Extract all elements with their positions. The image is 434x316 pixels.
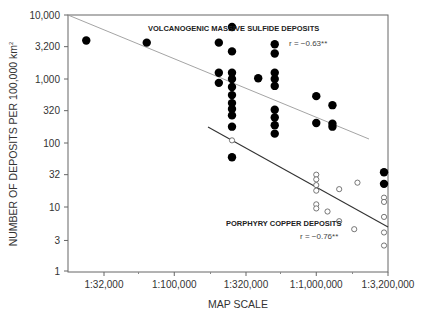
y-axis-title: NUMBER OF DEPOSITS PER 100,000 km2 xyxy=(7,41,19,246)
porphyry-r-label: r = −0.76** xyxy=(300,232,338,241)
porphyry-data-point xyxy=(314,177,319,182)
vms-data-point xyxy=(228,47,236,55)
vms-data-point xyxy=(271,113,279,121)
porphyry-series-label: PORPHYRY COPPER DEPOSITS xyxy=(226,219,341,228)
vms-data-point xyxy=(215,69,223,77)
porphyry-data-point xyxy=(337,187,342,192)
porphyry-data-point xyxy=(352,227,357,232)
vms-data-point xyxy=(328,122,336,130)
porphyry-trendline xyxy=(208,127,388,227)
vms-data-point xyxy=(228,111,236,119)
y-tick-label: 1,000 xyxy=(35,74,60,85)
porphyry-data-point xyxy=(381,230,386,235)
x-axis: 1:32,0001:100,0001:320,0001:1,000,0001:3… xyxy=(85,272,415,290)
porphyry-data-point xyxy=(314,206,319,211)
vms-data-point xyxy=(271,40,279,48)
vms-data-point xyxy=(215,38,223,46)
x-tick-label: 1:100,000 xyxy=(152,279,197,290)
vms-data-point xyxy=(215,79,223,87)
y-tick-label: 3 xyxy=(54,235,60,246)
y-tick-label: 32 xyxy=(49,169,61,180)
y-axis: 1310321003201,0003,20010,000 xyxy=(29,10,68,277)
porphyry-data-point xyxy=(229,138,234,143)
vms-data-point xyxy=(228,91,236,99)
vms-data-point xyxy=(271,129,279,137)
vms-data-point xyxy=(143,38,151,46)
vms-data-point xyxy=(271,106,279,114)
vms-data-point xyxy=(228,122,236,130)
vms-data-point xyxy=(271,82,279,90)
porphyry-data-point xyxy=(381,214,386,219)
y-tick-label: 1 xyxy=(54,266,60,277)
porphyry-data-point xyxy=(355,180,360,185)
x-tick-label: 1:1,000,000 xyxy=(290,279,343,290)
vms-data-point xyxy=(312,119,320,127)
porphyry-data-point xyxy=(381,243,386,248)
vms-data-point xyxy=(328,101,336,109)
vms-data-point xyxy=(228,153,236,161)
scatter-chart: 1310321003201,0003,20010,000 1:32,0001:1… xyxy=(0,0,434,316)
y-tick-label: 10,000 xyxy=(29,10,60,21)
data-points xyxy=(82,23,388,248)
y-tick-label: 100 xyxy=(43,138,60,149)
vms-r-label: r = −0.63** xyxy=(289,39,327,48)
vms-data-point xyxy=(380,180,388,188)
vms-data-point xyxy=(380,168,388,176)
trend-lines xyxy=(68,15,388,227)
porphyry-data-point xyxy=(381,199,386,204)
x-axis-title: MAP SCALE xyxy=(208,298,268,310)
vms-data-point xyxy=(82,36,90,44)
vms-trendline xyxy=(68,15,369,139)
vms-data-point xyxy=(271,49,279,57)
plot-frame xyxy=(68,15,388,272)
vms-data-point xyxy=(228,83,236,91)
y-tick-label: 3,200 xyxy=(35,41,60,52)
vms-series-label: VOLCANOGENIC MASSIVE SULFIDE DEPOSITS xyxy=(148,24,319,33)
vms-data-point xyxy=(312,92,320,100)
y-tick-label: 320 xyxy=(43,105,60,116)
x-tick-label: 1:320,000 xyxy=(224,279,269,290)
vms-data-point xyxy=(228,75,236,83)
vms-data-point xyxy=(271,121,279,129)
porphyry-data-point xyxy=(314,182,319,187)
y-tick-label: 10 xyxy=(49,202,61,213)
vms-data-point xyxy=(254,74,262,82)
x-tick-label: 1:3,200,000 xyxy=(362,279,415,290)
porphyry-data-point xyxy=(314,188,319,193)
x-tick-label: 1:32,000 xyxy=(85,279,124,290)
porphyry-data-point xyxy=(325,209,330,214)
